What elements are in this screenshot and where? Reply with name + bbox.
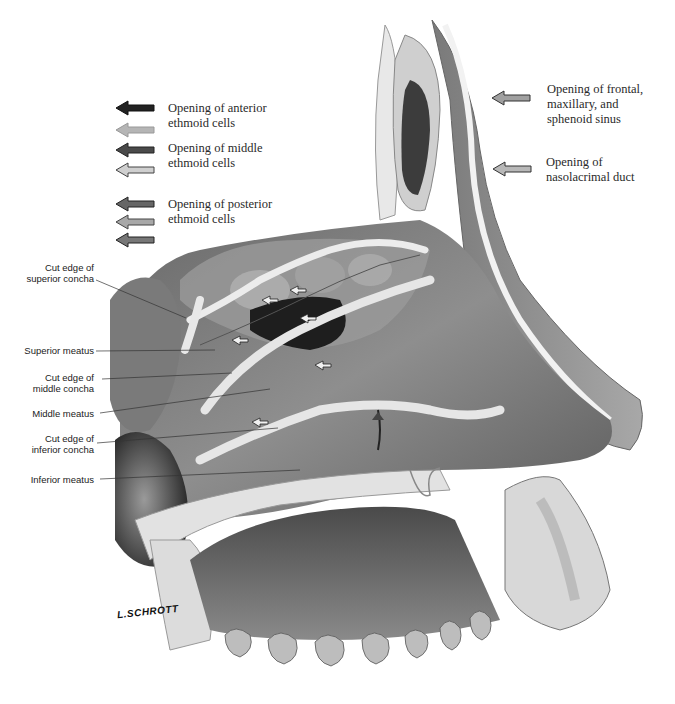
arrow-icon bbox=[491, 161, 533, 177]
arrow-icon bbox=[490, 90, 532, 106]
arrow-icon bbox=[114, 162, 156, 178]
arrow-icon bbox=[114, 214, 156, 230]
label-superior-meatus: Superior meatus bbox=[6, 345, 94, 356]
label-middle-ethmoid: Opening of middle ethmoid cells bbox=[168, 141, 262, 171]
arrow-icon bbox=[114, 142, 156, 158]
nasal-cavity-illustration: Opening of anterior ethmoid cells Openin… bbox=[0, 0, 675, 704]
label-anterior-ethmoid: Opening of anterior ethmoid cells bbox=[168, 101, 267, 131]
figure-caption-cropped bbox=[80, 696, 600, 704]
oral-cavity-roof bbox=[190, 507, 500, 640]
label-nasolacrimal-duct: Opening of nasolacrimal duct bbox=[546, 155, 635, 185]
label-middle-concha-edge: Cut edge of middle concha bbox=[6, 372, 94, 394]
arrow-icon bbox=[114, 122, 156, 138]
arrow-icon bbox=[114, 100, 156, 116]
label-inferior-meatus: Inferior meatus bbox=[6, 474, 94, 485]
arrow-icon bbox=[114, 232, 156, 248]
label-middle-meatus: Middle meatus bbox=[6, 408, 94, 419]
label-posterior-ethmoid: Opening of posterior ethmoid cells bbox=[168, 197, 272, 227]
upper-lip-section bbox=[505, 477, 610, 630]
label-inferior-concha-edge: Cut edge of inferior concha bbox=[6, 433, 94, 455]
label-superior-concha-edge: Cut edge of superior concha bbox=[6, 262, 94, 284]
label-sinus-opening: Opening of frontal, maxillary, and sphen… bbox=[547, 82, 643, 127]
arrow-icon bbox=[114, 196, 156, 212]
